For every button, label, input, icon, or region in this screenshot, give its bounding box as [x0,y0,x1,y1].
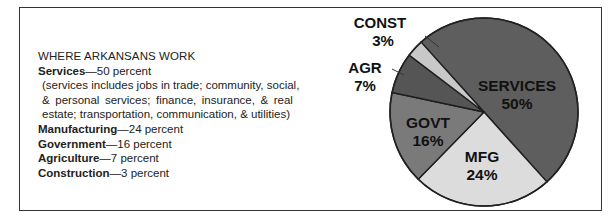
slice-label-mfg: MFG [465,148,499,165]
slice-pct-agr: 7% [354,77,376,94]
slice-label-govt: GOVT [406,114,450,131]
slice-label-services: SERVICES [478,77,556,94]
slice-label-const: CONST [354,14,407,31]
slice-pct-govt: 16% [412,132,443,149]
slice-pct-services: 50% [501,95,532,112]
slice-pct-const: 3% [372,32,394,49]
slice-label-agr: AGR [348,59,382,76]
slice-pct-mfg: 24% [466,166,497,183]
pie-chart: CONST 3% AGR 7% SERVICES 50% GOVT 16% MF… [0,0,614,221]
